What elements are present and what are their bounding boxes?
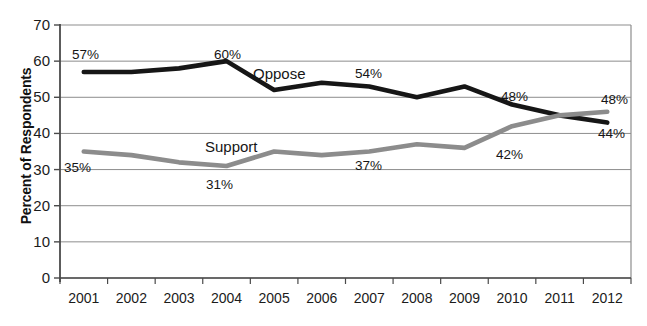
x-tick-label: 2006 — [295, 290, 349, 306]
x-tick-label: 2005 — [247, 290, 301, 306]
x-tick-label: 2008 — [390, 290, 444, 306]
data-value-label: 48% — [501, 89, 528, 104]
series-paths — [84, 61, 607, 166]
y-tick-label: 60 — [20, 52, 50, 69]
x-tick-label: 2004 — [200, 290, 254, 306]
data-value-label: 48% — [601, 92, 628, 107]
y-tick-label: 70 — [20, 16, 50, 33]
x-tick-label: 2009 — [437, 290, 491, 306]
x-tick-label: 2011 — [533, 290, 587, 306]
y-tick-label: 0 — [20, 269, 50, 286]
data-value-label: 35% — [64, 160, 91, 175]
y-tick-label: 30 — [20, 161, 50, 178]
data-value-label: 42% — [496, 147, 523, 162]
data-value-label: 44% — [598, 126, 625, 141]
y-tick-label: 40 — [20, 124, 50, 141]
data-value-label: 31% — [206, 177, 233, 192]
data-value-label: 54% — [355, 66, 382, 81]
y-tick-label: 20 — [20, 197, 50, 214]
series-line-oppose — [84, 61, 607, 122]
x-tick-label: 2003 — [152, 290, 206, 306]
series-inline-label: Support — [205, 138, 258, 155]
line-chart: Percent of Respondents 706050403020100 2… — [0, 0, 647, 326]
y-tick-label: 50 — [20, 88, 50, 105]
series-line-support — [84, 112, 607, 166]
x-tick-label: 2007 — [342, 290, 396, 306]
x-tick-label: 2012 — [580, 290, 634, 306]
x-tick-label: 2010 — [485, 290, 539, 306]
x-axis-ticks — [60, 278, 631, 284]
data-value-label: 37% — [355, 158, 382, 173]
series-inline-label: Oppose — [253, 65, 306, 82]
x-tick-label: 2001 — [57, 290, 111, 306]
x-tick-label: 2002 — [104, 290, 158, 306]
data-value-label: 60% — [214, 47, 241, 62]
data-value-label: 57% — [72, 47, 99, 62]
y-tick-label: 10 — [20, 233, 50, 250]
